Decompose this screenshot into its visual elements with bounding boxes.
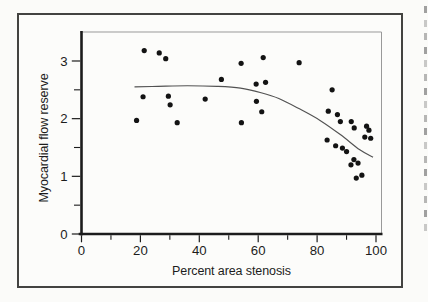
data-point <box>344 149 349 154</box>
data-point <box>175 120 180 125</box>
x-tick-label: 40 <box>192 243 207 258</box>
data-point <box>355 160 360 165</box>
edge-text-fragment <box>424 115 427 122</box>
data-point <box>348 162 353 167</box>
edge-text-fragment <box>424 183 427 190</box>
edge-text-fragment <box>424 210 427 217</box>
edge-text-fragment <box>424 88 427 95</box>
data-point <box>326 109 331 114</box>
edge-text-fragment <box>424 101 427 108</box>
data-point <box>333 143 338 148</box>
data-point <box>362 135 367 140</box>
data-point <box>351 157 356 162</box>
x-tick-label: 60 <box>251 243 266 258</box>
edge-text-fragment <box>424 20 427 27</box>
edge-text-fragment <box>424 156 427 163</box>
edge-text-fragment <box>424 6 427 13</box>
x-tick-label: 100 <box>365 243 387 258</box>
edge-text-fragment <box>424 74 427 81</box>
y-axis-title: Myocardial flow reserve <box>37 43 53 233</box>
data-point <box>254 81 259 86</box>
edge-text-fragment <box>424 196 427 203</box>
data-point <box>157 50 162 55</box>
data-point <box>335 112 340 117</box>
y-tick-label: 2 <box>60 111 67 126</box>
edge-text-fragment <box>424 47 427 54</box>
data-point <box>349 119 354 124</box>
data-point <box>352 125 357 130</box>
y-tick-label: 1 <box>60 169 67 184</box>
scatter-chart: 0204060801000123 <box>0 0 428 302</box>
data-point <box>219 77 224 82</box>
data-point <box>140 94 145 99</box>
x-tick-label: 0 <box>78 243 85 258</box>
y-tick-label: 0 <box>60 227 67 242</box>
data-point <box>168 102 173 107</box>
data-point <box>354 175 359 180</box>
data-point <box>239 61 244 66</box>
y-tick-label: 3 <box>60 54 67 69</box>
edge-text-fragment <box>424 169 427 176</box>
data-point <box>368 136 373 141</box>
data-point <box>359 173 364 178</box>
edge-text-fragment <box>424 33 427 40</box>
edge-text-fragment <box>424 142 427 149</box>
data-point <box>203 96 208 101</box>
data-point <box>261 55 266 60</box>
data-point <box>239 120 244 125</box>
data-point <box>330 87 335 92</box>
data-point <box>325 137 330 142</box>
data-point <box>163 56 168 61</box>
edge-text-fragment <box>424 128 427 135</box>
data-point <box>297 60 302 65</box>
data-point <box>254 99 259 104</box>
data-point <box>259 109 264 114</box>
data-point <box>263 80 268 85</box>
data-point <box>366 128 371 133</box>
x-tick-label: 80 <box>310 243 325 258</box>
edge-text-fragment <box>424 224 427 231</box>
data-point <box>134 118 139 123</box>
data-point <box>166 94 171 99</box>
book-figure-page: 0204060801000123 Percent area stenosis M… <box>0 0 428 302</box>
x-axis-title: Percent area stenosis <box>81 264 382 278</box>
data-point <box>340 145 345 150</box>
edge-text-fragment <box>424 60 427 67</box>
x-tick-label: 20 <box>133 243 148 258</box>
data-point <box>142 48 147 53</box>
data-point <box>338 119 343 124</box>
